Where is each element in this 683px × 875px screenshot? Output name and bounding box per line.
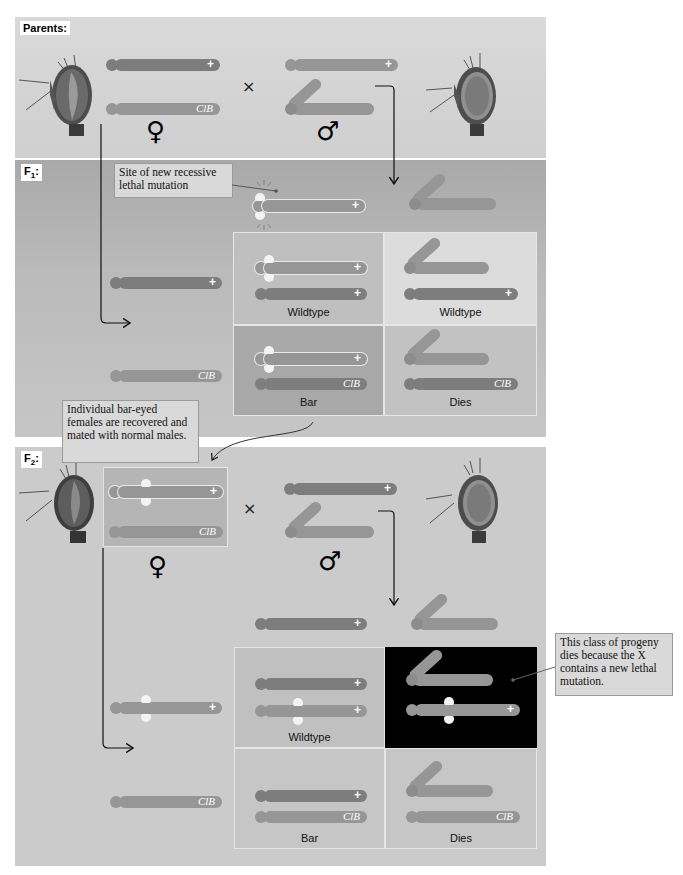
arrow-female-to-f1 (101, 124, 130, 323)
connector-lines (0, 0, 683, 875)
arrow-f2-male-to-progeny (378, 511, 394, 605)
arrow-bar-to-f2 (212, 422, 313, 460)
arrow-f2-female-to-progeny (103, 548, 133, 748)
arrow-male-to-f1 (375, 86, 394, 184)
